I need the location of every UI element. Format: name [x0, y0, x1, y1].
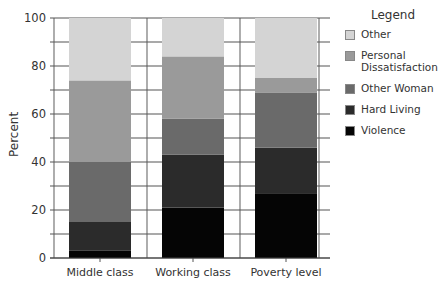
- x-tick-label: Working class: [155, 266, 231, 279]
- axes: [50, 258, 330, 262]
- legend-item-personal-dissatisfaction: Personal Dissatisfaction: [345, 49, 440, 73]
- y-axis-label: Percent: [7, 117, 21, 157]
- y-tick-label: 80: [31, 59, 46, 73]
- bar-segment: [162, 18, 224, 56]
- legend-label: Other Woman: [361, 82, 434, 94]
- y-tick-label: 20: [31, 203, 46, 217]
- legend-label: Violence: [361, 124, 406, 136]
- y-tick-label: 60: [31, 107, 46, 121]
- y-tick-label: 0: [39, 251, 46, 265]
- legend-swatch-hard-living: [345, 105, 355, 115]
- x-tick-label: Middle class: [66, 266, 133, 279]
- bar-segment: [69, 80, 131, 162]
- legend-swatch-other-woman: [345, 84, 355, 94]
- legend-label: Personal Dissatisfaction: [361, 49, 431, 73]
- bar-segment: [162, 56, 224, 118]
- x-tick-label: Poverty level: [250, 266, 321, 279]
- bars: [69, 18, 317, 258]
- bar-segment: [69, 162, 131, 222]
- legend-title: Legend: [371, 8, 440, 22]
- bar-segment: [255, 92, 317, 147]
- bar-segment: [255, 78, 317, 92]
- bar-segment: [255, 18, 317, 78]
- bar-segment: [69, 251, 131, 258]
- bar-segment: [255, 193, 317, 258]
- legend-item-other-woman: Other Woman: [345, 82, 440, 94]
- legend-swatch-personal-dissatisfaction: [345, 51, 355, 61]
- legend-item-hard-living: Hard Living: [345, 103, 440, 115]
- legend-swatch-other: [345, 30, 355, 40]
- bar-segment: [162, 119, 224, 155]
- legend: Legend Other Personal Dissatisfaction Ot…: [345, 8, 440, 145]
- bar-segment: [162, 155, 224, 208]
- y-tick-labels: 020406080100: [24, 11, 46, 265]
- legend-item-other: Other: [345, 28, 440, 40]
- x-tick-labels: Middle classWorking classPoverty level: [66, 266, 321, 279]
- bar-segment: [69, 222, 131, 251]
- legend-label: Other: [361, 28, 391, 40]
- legend-label: Hard Living: [361, 103, 421, 115]
- legend-swatch-violence: [345, 126, 355, 136]
- legend-item-violence: Violence: [345, 124, 440, 136]
- y-tick-label: 40: [31, 155, 46, 169]
- bar-segment: [255, 148, 317, 194]
- y-tick-label: 100: [24, 11, 46, 25]
- bar-segment: [162, 208, 224, 258]
- bar-segment: [69, 18, 131, 80]
